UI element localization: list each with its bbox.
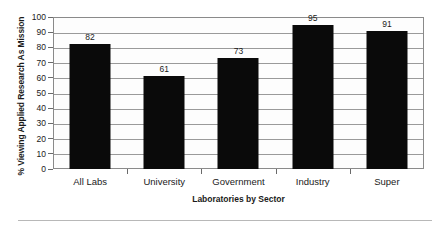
bar-value-label: 82 — [85, 33, 94, 42]
x-axis-tick-mark — [201, 169, 202, 174]
y-axis-tick-label: 10 — [24, 150, 46, 158]
y-axis-tick-mark — [48, 17, 53, 18]
x-axis-category-label: Super — [350, 176, 424, 188]
bar-value-label: 91 — [382, 20, 391, 29]
x-axis-tick-mark — [276, 169, 277, 174]
bar — [70, 44, 111, 169]
x-axis-tick-mark — [350, 169, 351, 174]
y-axis-tick-label: 50 — [24, 89, 46, 97]
y-axis-tick-label: 0 — [24, 165, 46, 173]
y-axis-tick-label: 20 — [24, 135, 46, 143]
bar-group: 95 — [276, 17, 350, 169]
y-axis-tick-mark — [48, 153, 53, 154]
y-axis-tick-labels: 1009080706050403020100 — [24, 17, 46, 169]
y-axis-tick-mark — [48, 62, 53, 63]
bar — [292, 25, 333, 169]
y-axis-tick-label: 60 — [24, 74, 46, 82]
bar-group: 61 — [127, 17, 201, 169]
y-axis-tick-mark — [48, 138, 53, 139]
y-axis-tick-label: 40 — [24, 104, 46, 112]
bar — [366, 31, 407, 169]
x-axis-category-labels: All LabsUniversityGovernmentIndustrySupe… — [53, 176, 424, 190]
bar-group: 73 — [201, 17, 275, 169]
y-axis-tick-mark — [48, 93, 53, 94]
y-axis-tick-mark — [48, 108, 53, 109]
bar — [218, 58, 259, 169]
bar-chart-figure: % Viewing Applied Research As Mission 10… — [0, 0, 446, 228]
y-axis-tick-label: 70 — [24, 59, 46, 67]
bar-value-label: 73 — [234, 47, 243, 56]
bar-value-label: 95 — [308, 14, 317, 23]
bar-value-label: 61 — [160, 65, 169, 74]
y-axis-tick-mark — [48, 32, 53, 33]
y-axis-tick-mark — [48, 123, 53, 124]
bar-series: 8261739591 — [53, 17, 424, 169]
y-axis-tick-mark — [48, 77, 53, 78]
y-axis-tick-mark — [48, 47, 53, 48]
x-axis-title: Laboratories by Sector — [53, 194, 424, 205]
bottom-divider — [18, 220, 432, 221]
bar-group: 82 — [53, 17, 127, 169]
x-axis-category-label: University — [127, 176, 201, 188]
bar-group: 91 — [350, 17, 424, 169]
y-axis-tick-mark — [48, 169, 53, 170]
y-axis-tick-label: 80 — [24, 43, 46, 51]
x-axis-category-label: Industry — [276, 176, 350, 188]
y-axis-tick-label: 30 — [24, 119, 46, 127]
bar — [144, 76, 185, 169]
x-axis-tick-mark — [127, 169, 128, 174]
y-axis-tick-label: 100 — [24, 13, 46, 21]
x-axis-category-label: Government — [201, 176, 275, 188]
x-axis-category-label: All Labs — [53, 176, 127, 188]
y-axis-tick-label: 90 — [24, 28, 46, 36]
